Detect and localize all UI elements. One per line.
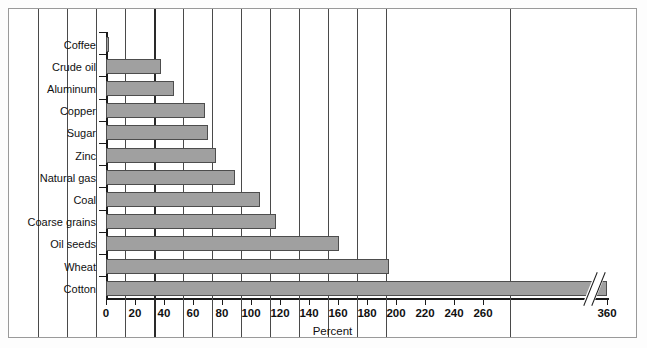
bar-crude-oil xyxy=(106,59,161,74)
y-tick-1 xyxy=(99,54,106,55)
x-tick-label-260: 260 xyxy=(463,307,503,319)
chart-figure: CoffeeCrude oilAluminumCopperSugarZincNa… xyxy=(0,0,647,348)
x-tick-180 xyxy=(367,300,368,305)
y-tick-2 xyxy=(99,76,106,77)
category-label-natural-gas: Natural gas xyxy=(40,172,96,184)
y-tick-6 xyxy=(99,165,106,166)
x-tick-220 xyxy=(425,300,426,305)
bar-oil-seeds xyxy=(106,236,339,251)
x-tick-0 xyxy=(106,300,107,305)
category-label-coarse-grains: Coarse grains xyxy=(28,216,96,228)
category-label-zinc: Zinc xyxy=(75,150,96,162)
y-tick-3 xyxy=(99,99,106,100)
x-tick-100 xyxy=(251,300,252,305)
x-tick-240 xyxy=(454,300,455,305)
x-tick-label-360: 360 xyxy=(587,307,627,319)
x-tick-200 xyxy=(396,300,397,305)
x-tick-140 xyxy=(309,300,310,305)
category-label-coffee: Coffee xyxy=(64,39,96,51)
y-tick-5 xyxy=(99,143,106,144)
category-label-cotton: Cotton xyxy=(64,283,96,295)
x-axis-title: Percent xyxy=(9,325,647,337)
x-tick-80 xyxy=(222,300,223,305)
bar-zinc xyxy=(106,148,216,163)
y-tick-0 xyxy=(99,32,106,33)
category-label-coal: Coal xyxy=(73,194,96,206)
x-tick-20 xyxy=(135,300,136,305)
x-tick-260 xyxy=(483,300,484,305)
y-tick-9 xyxy=(99,232,106,233)
category-label-sugar: Sugar xyxy=(67,127,96,139)
category-label-oil-seeds: Oil seeds xyxy=(50,238,96,250)
category-label-aluminum: Aluminum xyxy=(47,83,96,95)
bar-sugar xyxy=(106,125,208,140)
bar-coarse-grains xyxy=(106,214,276,229)
x-tick-160 xyxy=(338,300,339,305)
bar-aluminum xyxy=(106,81,174,96)
bar-natural-gas xyxy=(106,170,235,185)
x-tick-40 xyxy=(164,300,165,305)
x-tick-120 xyxy=(280,300,281,305)
y-tick-10 xyxy=(99,254,106,255)
bar-cotton xyxy=(106,281,607,296)
y-tick-7 xyxy=(99,187,106,188)
bar-coal xyxy=(106,192,260,207)
y-tick-8 xyxy=(99,210,106,211)
bar-wheat xyxy=(106,259,389,274)
bar-copper xyxy=(106,103,205,118)
category-label-copper: Copper xyxy=(60,105,96,117)
y-tick-11 xyxy=(99,276,106,277)
category-label-crude-oil: Crude oil xyxy=(52,61,96,73)
category-label-wheat: Wheat xyxy=(64,261,96,273)
x-tick-360 xyxy=(607,300,608,305)
x-tick-60 xyxy=(193,300,194,305)
gridline-60 xyxy=(96,9,97,337)
bar-coffee xyxy=(106,37,109,52)
y-tick-4 xyxy=(99,121,106,122)
chart-frame: CoffeeCrude oilAluminumCopperSugarZincNa… xyxy=(8,8,637,338)
